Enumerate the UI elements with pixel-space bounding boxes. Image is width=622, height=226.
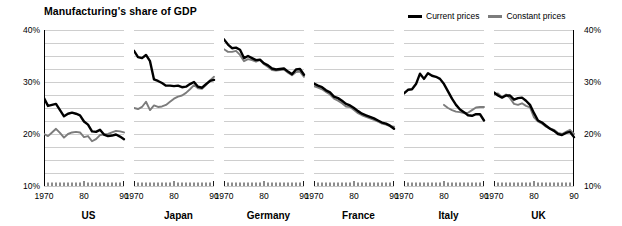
x-axis-tick-label: 80 bbox=[169, 192, 178, 201]
panel-plot-area bbox=[494, 30, 583, 190]
x-axis-tick-labels: 19708090 bbox=[134, 192, 223, 204]
y-axis-tick-label: 30% bbox=[10, 78, 40, 87]
x-axis-ticks bbox=[225, 181, 304, 186]
y-axis-tick-label: 10% bbox=[584, 182, 614, 191]
chart-figure: Manufacturing's share of GDP Current pri… bbox=[0, 0, 622, 226]
panel-title: Italy bbox=[404, 210, 493, 221]
chart-panel-japan: 19708090Japan bbox=[134, 30, 223, 190]
x-axis-tick-label: 80 bbox=[529, 192, 538, 201]
x-axis-ticks bbox=[135, 181, 214, 186]
chart-panel-germany: 19708090Germany bbox=[224, 30, 313, 190]
x-axis-tick-labels: 19708090 bbox=[404, 192, 493, 204]
x-axis-tick-label: 1970 bbox=[215, 192, 234, 201]
chart-panel-france: 19708090France bbox=[314, 30, 403, 190]
panel-title: US bbox=[44, 210, 133, 221]
y-axis-tick-label: 20% bbox=[10, 130, 40, 139]
y-axis-tick-label: 10% bbox=[10, 182, 40, 191]
x-axis-tick-label: 80 bbox=[259, 192, 268, 201]
chart-panel-italy: 19708090Italy bbox=[404, 30, 493, 190]
chart-legend: Current prices Constant prices bbox=[408, 12, 565, 21]
x-axis-tick-labels: 19708090 bbox=[224, 192, 313, 204]
x-axis-tick-label: 1970 bbox=[125, 192, 144, 201]
x-axis-tick-label: 90 bbox=[569, 192, 578, 201]
panel-plot-area bbox=[314, 30, 403, 190]
data-line-current-prices bbox=[404, 73, 484, 120]
data-line-current-prices bbox=[494, 92, 574, 137]
chart-title: Manufacturing's share of GDP bbox=[44, 5, 197, 17]
data-line-constant-prices bbox=[134, 77, 214, 110]
panel-title: UK bbox=[494, 210, 583, 221]
legend-label: Constant prices bbox=[506, 12, 565, 21]
x-axis-ticks bbox=[495, 181, 574, 186]
gridlines bbox=[404, 31, 484, 187]
gridlines bbox=[494, 31, 574, 187]
y-axis-labels-right: 40%30%20%10% bbox=[584, 0, 614, 226]
y-axis-tick-label: 30% bbox=[584, 78, 614, 87]
legend-entry-constant-prices: Constant prices bbox=[488, 12, 565, 21]
chart-panel-uk: 19708090UK bbox=[494, 30, 583, 190]
y-axis-tick-label: 20% bbox=[584, 130, 614, 139]
panel-title: Japan bbox=[134, 210, 223, 221]
gridlines bbox=[44, 31, 124, 187]
x-axis-tick-labels: 19708090 bbox=[314, 192, 403, 204]
panel-plot-area bbox=[44, 30, 133, 190]
panel-title: France bbox=[314, 210, 403, 221]
x-axis-tick-labels: 19708090 bbox=[494, 192, 583, 204]
panel-plot-area bbox=[134, 30, 223, 190]
x-axis-tick-labels: 19708090 bbox=[44, 192, 133, 204]
panel-plot-area bbox=[224, 30, 313, 190]
data-line-constant-prices bbox=[314, 86, 394, 127]
x-axis-ticks bbox=[405, 181, 484, 186]
x-axis-tick-label: 1970 bbox=[35, 192, 54, 201]
x-axis-tick-label: 1970 bbox=[305, 192, 324, 201]
x-axis-ticks bbox=[45, 181, 124, 186]
legend-entry-current-prices: Current prices bbox=[408, 12, 479, 21]
legend-swatch-line-icon bbox=[488, 15, 502, 18]
y-axis-tick-label: 40% bbox=[10, 26, 40, 35]
panel-title: Germany bbox=[224, 210, 313, 221]
gridlines bbox=[224, 31, 304, 187]
panel-plot-area bbox=[404, 30, 493, 190]
chart-panel-us: 19708090US bbox=[44, 30, 133, 190]
y-axis-tick-label: 40% bbox=[584, 26, 614, 35]
legend-label: Current prices bbox=[426, 12, 479, 21]
x-axis-tick-label: 80 bbox=[439, 192, 448, 201]
legend-swatch-line-icon bbox=[408, 15, 422, 18]
x-axis-tick-label: 1970 bbox=[485, 192, 504, 201]
x-axis-tick-label: 80 bbox=[349, 192, 358, 201]
x-axis-tick-label: 1970 bbox=[395, 192, 414, 201]
x-axis-ticks bbox=[315, 181, 394, 186]
x-axis-tick-label: 80 bbox=[79, 192, 88, 201]
data-line-current-prices bbox=[314, 84, 394, 129]
